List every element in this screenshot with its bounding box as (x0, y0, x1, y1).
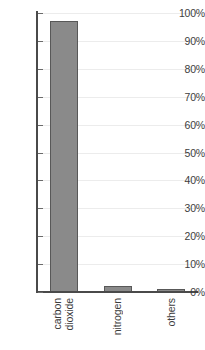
y-axis-tick-label: 90% (172, 36, 205, 46)
x-axis-label-line: others (166, 298, 177, 327)
y-axis-tick-label: 40% (172, 175, 205, 185)
y-axis-line (36, 11, 38, 293)
y-axis-tick (38, 264, 43, 265)
y-axis-tick (38, 180, 43, 181)
y-axis-tick (38, 69, 43, 70)
x-axis-label: carbondioxide (37, 298, 91, 346)
y-axis-tick-label: 70% (172, 92, 205, 102)
x-axis-label-line: dioxide (64, 298, 75, 331)
y-axis-tick (38, 41, 43, 42)
y-axis-tick-label: 0% (172, 287, 205, 297)
bar (50, 21, 78, 292)
y-axis-tick (38, 153, 43, 154)
y-axis-tick (38, 97, 43, 98)
y-axis-tick-label: 100% (172, 8, 205, 18)
x-axis-label-line: carbon (52, 298, 63, 330)
y-axis-tick-label: 60% (172, 120, 205, 130)
y-axis-tick (38, 236, 43, 237)
y-axis-tick-label: 30% (172, 203, 205, 213)
y-axis-tick-label: 50% (172, 148, 205, 158)
y-axis-tick-label: 80% (172, 64, 205, 74)
y-axis-tick-label: 10% (172, 259, 205, 269)
y-axis-tick (38, 13, 43, 14)
bar-chart: 0%10%20%30%40%50%60%70%80%90%100% carbon… (0, 0, 205, 350)
y-axis-tick (38, 125, 43, 126)
y-axis-tick (38, 292, 43, 293)
x-axis-label-line: nitrogen (112, 298, 123, 335)
y-axis-tick (38, 208, 43, 209)
y-axis-tick-label: 20% (172, 231, 205, 241)
x-axis-label: nitrogen (91, 298, 145, 346)
x-axis-label: others (144, 298, 198, 346)
